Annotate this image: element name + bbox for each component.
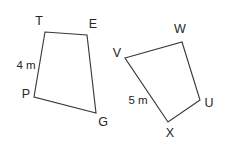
vertex-label-T: T xyxy=(35,14,43,28)
shape-quadrilateral-VWUX: V W U X 5 m xyxy=(113,22,214,140)
vertex-label-V: V xyxy=(113,46,122,60)
vertex-label-U: U xyxy=(204,96,213,110)
quadrilateral-TEGP-outline xyxy=(34,32,96,113)
shape-quadrilateral-TEGP: T E G P 4 m xyxy=(16,14,107,129)
side-measure-label-TP: 4 m xyxy=(16,59,35,71)
vertex-label-G: G xyxy=(98,115,108,129)
vertex-label-X: X xyxy=(166,126,175,140)
vertex-label-W: W xyxy=(174,22,186,36)
side-measure-label-VX: 5 m xyxy=(128,94,147,106)
vertex-label-P: P xyxy=(22,87,30,101)
geometry-figure: T E G P 4 m V W U X 5 m xyxy=(0,0,226,147)
geometry-canvas: T E G P 4 m V W U X 5 m xyxy=(0,0,226,147)
quadrilateral-VWUX-outline xyxy=(125,42,200,122)
vertex-label-E: E xyxy=(89,17,97,31)
